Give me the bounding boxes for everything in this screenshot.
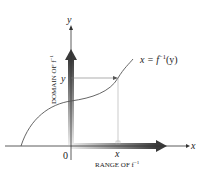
curve-label-lhs: x = f [139, 54, 160, 65]
inverse-function-diagram: y x 0 y x x = f−1(y) DOMAIN OF f−1 RANGE… [0, 0, 202, 180]
domain-label-text: DOMAIN OF f [50, 60, 58, 104]
curve-label-sup: −1 [159, 53, 166, 60]
range-label-sup: −1 [134, 160, 140, 165]
domain-label-sup: −1 [49, 55, 54, 61]
origin-label: 0 [63, 150, 68, 161]
x-value-label: x [114, 148, 120, 159]
range-label: RANGE OF f−1 [95, 160, 140, 169]
y-axis-arrow-icon [69, 25, 73, 30]
range-label-text: RANGE OF f [95, 161, 135, 169]
y-axis-label: y [66, 14, 72, 25]
inverse-function-curve [21, 59, 133, 146]
y-value-label: y [60, 73, 66, 84]
x-axis-arrow-icon [186, 144, 190, 148]
domain-label: DOMAIN OF f−1 [49, 55, 58, 104]
x-axis-label: x [190, 140, 196, 151]
curve-label-rhs: (y) [166, 54, 178, 66]
curve-label: x = f−1(y) [139, 53, 178, 66]
horizontal-guide-arrow [71, 76, 118, 80]
